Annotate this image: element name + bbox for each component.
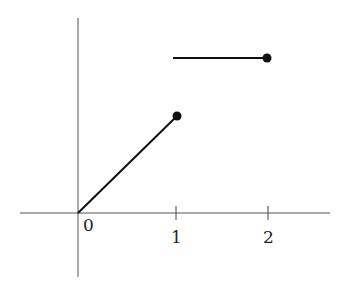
x-tick-label-1: 1 <box>171 227 182 247</box>
segment-1-closed-endpoint <box>173 112 182 121</box>
x-tick-label-0: 0 <box>83 215 94 235</box>
segment-2-closed-endpoint <box>263 54 272 63</box>
piecewise-function-plot: 0 1 2 <box>0 0 339 282</box>
x-tick-label-2: 2 <box>263 227 274 247</box>
segment-1-line <box>78 116 177 213</box>
